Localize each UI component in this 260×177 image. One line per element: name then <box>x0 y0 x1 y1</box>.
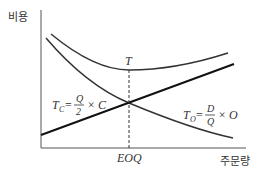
ordering-cost-formula: T O = D Q × O <box>183 103 238 127</box>
svg-text:× C: × C <box>87 98 107 112</box>
svg-text:× O: × O <box>218 108 238 122</box>
svg-text:=: = <box>196 108 203 122</box>
eoq-label: EOQ <box>116 151 142 165</box>
svg-text:Q: Q <box>76 93 84 104</box>
svg-text:=: = <box>65 98 72 112</box>
y-axis-label: 비용 <box>8 11 28 24</box>
svg-text:Q: Q <box>207 116 215 127</box>
total-cost-curve <box>51 34 228 70</box>
x-axis-label: 주문량 <box>220 155 250 168</box>
total-cost-label: T <box>125 54 133 68</box>
eoq-chart: 비용 주문량 T EOQ T C = Q 2 × C T O = D Q × O <box>0 0 260 177</box>
svg-text:D: D <box>206 103 215 114</box>
svg-text:2: 2 <box>76 106 81 117</box>
